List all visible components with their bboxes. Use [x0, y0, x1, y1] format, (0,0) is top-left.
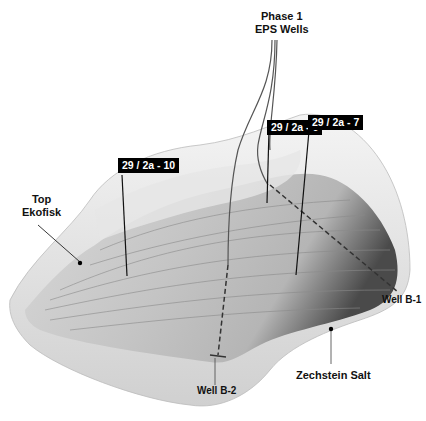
zechstein-salt-label: Zechstein Salt [296, 369, 371, 382]
phase1-line1: Phase 1 [255, 10, 309, 23]
phase1-title: Phase 1 EPS Wells [255, 10, 309, 36]
top-ekofisk-line1: Top [22, 193, 61, 206]
well-label-29-2a-7: 29 / 2a - 7 [308, 115, 363, 130]
surface-diagram [0, 0, 426, 421]
well-b1-label: Well B-1 [382, 293, 421, 306]
well-label-29-2a-10: 29 / 2a - 10 [118, 158, 179, 173]
top-ekofisk-label: Top Ekofisk [22, 193, 61, 219]
top-ekofisk-line2: Ekofisk [22, 206, 61, 219]
phase1-line2: EPS Wells [255, 23, 309, 36]
well-b2-label: Well B-2 [197, 384, 236, 397]
